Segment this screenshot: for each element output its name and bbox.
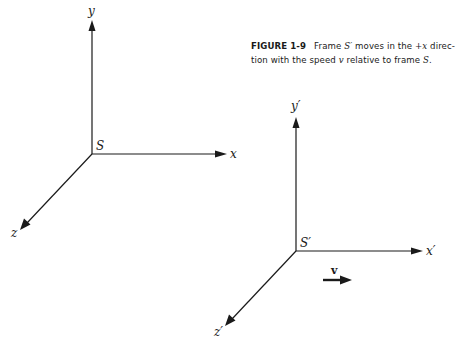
- sprime-y-label: y′: [290, 99, 301, 113]
- velocity-arrowhead-icon: [340, 276, 352, 285]
- caption-text: direc-: [427, 41, 455, 51]
- caption-text: moves in the: [352, 41, 415, 51]
- s-z-axis: [27, 154, 92, 223]
- sprime-z-axis: [232, 251, 296, 319]
- s-z-label: z: [10, 226, 18, 240]
- caption-line-1: FIGURE 1-9Frame S′ moves in the +x direc…: [251, 39, 461, 53]
- caption-direction-symbol: +x: [415, 41, 427, 51]
- s-y-label: y: [87, 4, 95, 18]
- velocity-label: v: [330, 264, 338, 277]
- sprime-x-arrowhead-icon: [411, 248, 423, 255]
- sprime-x-label: x′: [426, 244, 436, 258]
- sprime-origin-label: S′: [300, 236, 311, 250]
- s-origin-label: S: [96, 139, 104, 153]
- caption-text: tion with the speed: [251, 55, 339, 65]
- s-x-label: x: [230, 147, 237, 161]
- sprime-y-arrowhead-icon: [293, 117, 300, 128]
- frame-s: y x z S: [10, 4, 237, 240]
- velocity-arrow: v: [323, 264, 352, 285]
- caption-line-2: tion with the speed v relative to frame …: [251, 53, 461, 67]
- caption-text: relative to frame: [344, 55, 423, 65]
- figure-number: FIGURE 1-9: [251, 41, 306, 51]
- s-y-arrowhead-icon: [89, 20, 96, 31]
- caption-text: Frame: [314, 41, 344, 51]
- s-x-arrowhead-icon: [215, 151, 227, 158]
- sprime-z-label: z′: [213, 325, 223, 339]
- frame-s-prime: y′ x′ z′ S′: [213, 99, 436, 339]
- figure-caption: FIGURE 1-9Frame S′ moves in the +x direc…: [251, 39, 461, 67]
- caption-text: .: [429, 55, 432, 65]
